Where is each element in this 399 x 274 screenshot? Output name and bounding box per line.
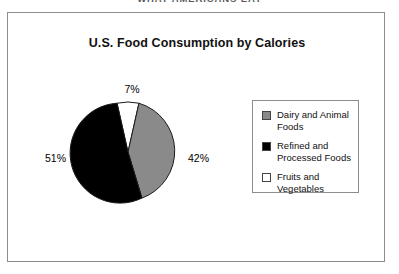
legend-label-fruits-and-vegetables: Fruits and Vegetables [277, 171, 352, 194]
page-header-caption: WHAT AMERICANS EAT [0, 0, 399, 2]
pie-label-dairy-and-animal-foods: 42% [188, 152, 228, 164]
pie-chart [78, 102, 178, 202]
legend-swatch-refined-and-processed-foods [262, 142, 271, 151]
legend-item-dairy-and-animal-foods: Dairy and Animal Foods [262, 109, 352, 132]
legend-item-fruits-and-vegetables: Fruits and Vegetables [262, 171, 352, 194]
chart-frame: U.S. Food Consumption by Calories 7% 51%… [7, 12, 385, 262]
chart-page: WHAT AMERICANS EAT U.S. Food Consumption… [0, 0, 399, 274]
pie-label-refined-and-processed-foods: 51% [26, 152, 66, 164]
chart-title: U.S. Food Consumption by Calories [8, 36, 386, 50]
legend-item-refined-and-processed-foods: Refined and Processed Foods [262, 140, 352, 163]
pie-chart-svg [78, 102, 178, 202]
chart-legend: Dairy and Animal Foods Refined and Proce… [252, 100, 359, 193]
legend-swatch-dairy-and-animal-foods [262, 111, 271, 120]
legend-label-dairy-and-animal-foods: Dairy and Animal Foods [277, 109, 352, 132]
legend-label-refined-and-processed-foods: Refined and Processed Foods [277, 140, 352, 163]
legend-swatch-fruits-and-vegetables [262, 173, 271, 182]
pie-label-fruits-and-vegetables: 7% [112, 83, 152, 95]
